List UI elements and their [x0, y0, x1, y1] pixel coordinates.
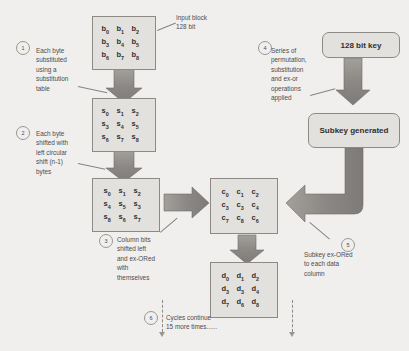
arrow-add-round-key — [286, 148, 363, 222]
matrix-cell: d3 — [222, 284, 237, 297]
cycle-dashed-line-left — [162, 300, 163, 332]
matrix-row: c0 c1 c2 — [222, 187, 267, 200]
input-block-matrix: b0 b1 b2 b3 b4 b5 b6 b7 b8 — [92, 16, 156, 70]
matrix-row: d3 d3 d4 — [222, 284, 267, 297]
matrix-cell: s2 — [132, 106, 147, 119]
matrix-cell: d0 — [222, 271, 237, 284]
matrix-row: s4 s5 s3 — [104, 199, 149, 212]
step-text-5: Subkey ex-ORed to each data column — [304, 250, 368, 278]
matrix-cell: b4 — [117, 37, 132, 50]
matrix-cell: d8 — [252, 297, 267, 310]
matrix-cell: d7 — [222, 297, 237, 310]
matrix-cell: s8 — [104, 212, 119, 225]
matrix-cell: d4 — [252, 284, 267, 297]
matrix-cell: c8 — [237, 213, 252, 226]
matrix-cell: c1 — [237, 187, 252, 200]
matrix-row: c3 c3 c4 — [222, 200, 267, 213]
matrix-row: s3 s4 s5 — [102, 119, 147, 132]
matrix-cell: s7 — [117, 132, 132, 145]
matrix-cell: s6 — [119, 212, 134, 225]
matrix-cell: b7 — [117, 50, 132, 63]
cycle-arrowhead-right — [289, 332, 295, 337]
matrix-cell: s6 — [102, 132, 117, 145]
diagram-canvas: b0 b1 b2 b3 b4 b5 b6 b7 b8 s0 s1 s2 s3 s… — [0, 0, 409, 351]
matrix-cell: s1 — [117, 106, 132, 119]
matrix-cell: b3 — [102, 37, 117, 50]
arrow-mix-columns — [164, 187, 209, 218]
arrow-round-output — [230, 235, 264, 264]
step-bullet-6: 6 — [144, 311, 158, 325]
cycle-arrowhead-left — [159, 332, 165, 337]
matrix-row: s6 s7 s8 — [102, 132, 147, 145]
matrix-row: d0 d1 d2 — [222, 271, 267, 284]
matrix-cell: b8 — [132, 50, 147, 63]
matrix-row: s8 s6 s7 — [104, 212, 149, 225]
step-bullet-3: 3 — [99, 234, 113, 248]
matrix-cell: s7 — [134, 212, 149, 225]
matrix-cell: s3 — [102, 119, 117, 132]
matrix-row: s0 s1 s2 — [104, 186, 149, 199]
matrix-cell: c3 — [237, 200, 252, 213]
matrix-cell: d6 — [237, 297, 252, 310]
matrix-cell: b1 — [117, 24, 132, 37]
matrix-cell: c3 — [222, 200, 237, 213]
step-text-3: Column bits shifted left and ex-ORed wit… — [117, 235, 173, 282]
matrix-row: b3 b4 b5 — [102, 37, 147, 50]
step-text-6: Cycles continue 15 more times...... — [166, 313, 240, 332]
subkey-generated-box: Subkey generated — [308, 113, 400, 148]
matrix-cell: c0 — [222, 187, 237, 200]
matrix-row: b0 b1 b2 — [102, 24, 147, 37]
matrix-cell: c6 — [252, 213, 267, 226]
matrix-cell: b2 — [132, 24, 147, 37]
matrix-cell: s0 — [102, 106, 117, 119]
substituted-matrix: s0 s1 s2 s3 s4 s5 s6 s7 s8 — [92, 98, 156, 152]
matrix-cell: s5 — [119, 199, 134, 212]
matrix-cell: d2 — [252, 271, 267, 284]
matrix-cell: c4 — [252, 200, 267, 213]
matrix-cell: s5 — [132, 119, 147, 132]
matrix-cell: b0 — [102, 24, 117, 37]
step-text-2: Each byte shifted with left circular shi… — [36, 129, 88, 176]
matrix-cell: d1 — [237, 271, 252, 284]
step-bullet-1: 1 — [16, 41, 30, 55]
step-bullet-4: 4 — [258, 41, 272, 55]
cycle-dashed-line-right — [292, 300, 293, 332]
matrix-cell: b5 — [132, 37, 147, 50]
matrix-cell: s0 — [104, 186, 119, 199]
matrix-cell: s3 — [134, 199, 149, 212]
mixed-columns-matrix: c0 c1 c2 c3 c3 c4 c7 c8 c6 — [210, 178, 278, 234]
matrix-cell: s1 — [119, 186, 134, 199]
matrix-cell: s4 — [104, 199, 119, 212]
matrix-row: s0 s1 s2 — [102, 106, 147, 119]
input-block-label: Input block 128 bit — [176, 13, 234, 32]
matrix-row: b6 b7 b8 — [102, 50, 147, 63]
matrix-cell: d3 — [237, 284, 252, 297]
step-bullet-2: 2 — [16, 126, 30, 140]
matrix-cell: c7 — [222, 213, 237, 226]
matrix-cell: c2 — [252, 187, 267, 200]
matrix-cell: s2 — [134, 186, 149, 199]
matrix-row: c7 c8 c6 — [222, 213, 267, 226]
output-matrix: d0 d1 d2 d3 d3 d4 d7 d6 d8 — [210, 262, 278, 318]
shifted-matrix: s0 s1 s2 s4 s5 s3 s8 s6 s7 — [92, 178, 160, 232]
matrix-row: d7 d6 d8 — [222, 297, 267, 310]
cipher-key-box: 128 bit key — [322, 32, 400, 58]
matrix-cell: s4 — [117, 119, 132, 132]
matrix-cell: b6 — [102, 50, 117, 63]
matrix-cell: s8 — [132, 132, 147, 145]
arrow-key-schedule — [336, 58, 370, 105]
